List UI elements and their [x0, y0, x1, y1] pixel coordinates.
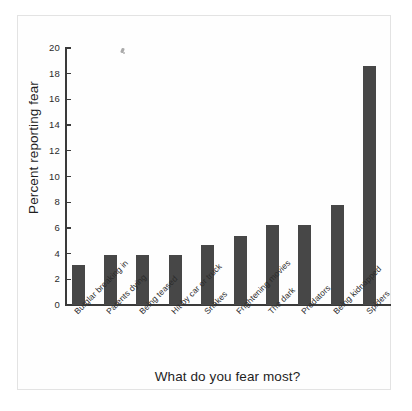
y-axis-tick	[66, 124, 71, 125]
y-axis-tick-label: 0	[32, 299, 60, 310]
bar	[331, 205, 344, 305]
y-axis-tick	[66, 253, 71, 254]
y-axis-tick	[66, 202, 71, 203]
y-axis-tick	[66, 150, 71, 151]
bar-chart: 02468101214161820 Burglar breaking inPar…	[0, 0, 412, 411]
y-axis-tick	[66, 73, 71, 74]
scan-artifact-dot	[123, 52, 125, 54]
y-axis-tick	[66, 304, 71, 305]
y-axis-tick	[66, 227, 71, 228]
y-axis-tick-label-wrap: 2	[30, 273, 60, 285]
y-axis-tick	[66, 279, 71, 280]
x-axis-title: What do you fear most?	[60, 369, 395, 384]
y-axis-tick-label: 2	[32, 273, 60, 284]
bar	[234, 236, 247, 305]
bar	[298, 225, 311, 305]
y-axis-title: Percent reporting fear	[26, 33, 41, 263]
y-axis-tick-label-wrap: 0	[30, 299, 60, 311]
y-axis-tick	[66, 176, 71, 177]
y-axis-tick	[66, 47, 71, 48]
y-axis-tick	[66, 99, 71, 100]
